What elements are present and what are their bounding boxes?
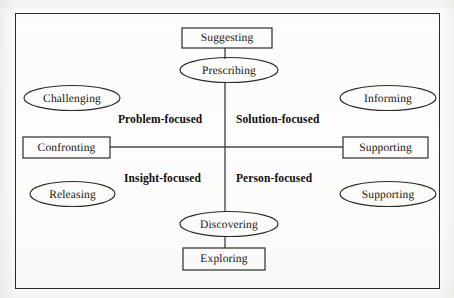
node-informing: Informing	[340, 86, 436, 111]
node-releasing-label: Releasing	[49, 189, 96, 201]
node-confronting-label: Confronting	[38, 142, 96, 154]
node-challenging: Challenging	[24, 86, 120, 111]
node-supporting-ellipse-label: Supporting	[362, 189, 415, 201]
node-supporting-box-label: Supporting	[359, 142, 412, 154]
node-suggesting: Suggesting	[182, 28, 272, 48]
node-challenging-label: Challenging	[43, 93, 101, 105]
quadrant-label-person-focused: Person-focused	[236, 172, 312, 184]
quadrant-label-problem-focused: Problem-focused	[118, 113, 202, 125]
node-releasing: Releasing	[30, 182, 115, 207]
quadrant-label-solution-focused: Solution-focused	[236, 113, 319, 125]
node-exploring-label: Exploring	[200, 253, 247, 265]
node-exploring: Exploring	[183, 248, 265, 270]
node-discovering: Discovering	[180, 212, 278, 237]
node-suggesting-label: Suggesting	[201, 32, 254, 44]
node-supporting-ellipse: Supporting	[340, 182, 436, 207]
quadrant-label-insight-focused: Insight-focused	[124, 172, 201, 184]
node-confronting: Confronting	[23, 137, 110, 158]
node-discovering-label: Discovering	[200, 219, 258, 231]
node-prescribing-label: Prescribing	[202, 65, 256, 77]
node-prescribing: Prescribing	[180, 58, 278, 83]
node-informing-label: Informing	[364, 93, 412, 105]
node-supporting-box: Supporting	[343, 137, 428, 158]
